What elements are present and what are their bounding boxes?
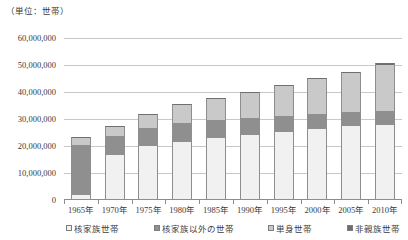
bar-segment[interactable] (105, 136, 125, 155)
x-axis-tick-label: 2000年 (305, 203, 331, 215)
legend-item[interactable]: 単身世帯 (268, 222, 312, 234)
bar-stack[interactable] (206, 98, 226, 200)
bar-segment[interactable] (307, 114, 327, 129)
x-axis-tick-label: 1970年 (102, 203, 128, 215)
bar-stack[interactable] (307, 78, 327, 200)
bar-slot (98, 38, 132, 200)
bar-segment[interactable] (138, 146, 158, 200)
bar-segment[interactable] (71, 145, 91, 195)
x-axis-tick-label: 1995年 (271, 203, 297, 215)
bar-slot (64, 38, 98, 200)
legend-label: 単身世帯 (276, 222, 312, 234)
bar-segment[interactable] (172, 142, 192, 200)
legend-label: 非親族世帯 (355, 222, 400, 234)
bar-segment[interactable] (375, 125, 395, 200)
legend-swatch (347, 225, 353, 231)
legend-swatch (268, 225, 274, 231)
bar-segment[interactable] (138, 128, 158, 146)
bar-segment[interactable] (375, 65, 395, 110)
bar-segment[interactable] (240, 118, 260, 135)
legend-label: 核家族以外の世帯 (162, 222, 234, 234)
bar-segment[interactable] (375, 111, 395, 125)
legend-swatch (154, 225, 160, 231)
bar-segment[interactable] (206, 138, 226, 200)
legend-item[interactable]: 核家族世帯 (66, 222, 119, 234)
legend-label: 核家族世帯 (74, 222, 119, 234)
bar-stack[interactable] (71, 137, 91, 200)
bar-segment[interactable] (138, 115, 158, 128)
bar-segment[interactable] (341, 112, 361, 126)
bar-stack[interactable] (240, 92, 260, 200)
legend-swatch (66, 225, 72, 231)
bar-segment[interactable] (240, 93, 260, 118)
y-axis-labels: 60,000,00050,000,00040,000,00030,000,000… (0, 38, 60, 200)
y-axis-tick-label: 10,000,000 (18, 168, 56, 178)
bar-slot (199, 38, 233, 200)
y-axis-tick-label: 60,000,000 (18, 33, 56, 43)
bar-segment[interactable] (206, 99, 226, 120)
x-axis-tick-label: 2010年 (372, 203, 398, 215)
bar-segment[interactable] (206, 120, 226, 138)
bar-stack[interactable] (105, 126, 125, 200)
bar-segment[interactable] (274, 132, 294, 200)
bar-stack[interactable] (138, 114, 158, 200)
bar-segment[interactable] (274, 116, 294, 132)
x-axis-tick-label: 1985年 (203, 203, 229, 215)
x-axis-tick-label: 1965年 (68, 203, 94, 215)
x-axis-tick-label: 1990年 (237, 203, 263, 215)
bars-layer (64, 38, 402, 200)
household-stacked-column-chart: （単位：世帯） 60,000,00050,000,00040,000,00030… (0, 0, 408, 240)
bar-segment[interactable] (105, 155, 125, 200)
bar-slot (165, 38, 199, 200)
bar-segment[interactable] (172, 123, 192, 141)
bar-slot (301, 38, 335, 200)
bar-stack[interactable] (375, 63, 395, 200)
bar-slot (334, 38, 368, 200)
bar-stack[interactable] (172, 104, 192, 200)
x-axis-tick-label: 1980年 (169, 203, 195, 215)
bar-slot (267, 38, 301, 200)
bar-slot (132, 38, 166, 200)
y-axis-tick-label: 20,000,000 (18, 141, 56, 151)
bar-segment[interactable] (307, 129, 327, 200)
chart-legend: 核家族世帯核家族以外の世帯単身世帯非親族世帯 (64, 220, 402, 236)
bar-stack[interactable] (274, 85, 294, 200)
bar-segment[interactable] (307, 79, 327, 114)
bar-slot (368, 38, 402, 200)
bar-segment[interactable] (105, 127, 125, 136)
y-axis-tick-label: 40,000,000 (18, 87, 56, 97)
legend-item[interactable]: 核家族以外の世帯 (154, 222, 234, 234)
bar-segment[interactable] (274, 86, 294, 116)
unit-caption: （単位：世帯） (6, 4, 69, 16)
y-axis-tick-label: 30,000,000 (18, 114, 56, 124)
bar-segment[interactable] (240, 135, 260, 200)
legend-item[interactable]: 非親族世帯 (347, 222, 400, 234)
bar-segment[interactable] (341, 126, 361, 200)
bar-segment[interactable] (341, 73, 361, 112)
x-axis-tick-label: 1975年 (136, 203, 162, 215)
bar-slot (233, 38, 267, 200)
y-axis-tick-label: 0 (52, 195, 56, 205)
bar-stack[interactable] (341, 72, 361, 200)
x-axis-labels: 1965年1970年1975年1980年1985年1990年1995年2000年… (64, 203, 402, 217)
x-axis-tick-label: 2005年 (338, 203, 364, 215)
y-axis-tick-label: 50,000,000 (18, 60, 56, 70)
bar-segment[interactable] (172, 105, 192, 123)
